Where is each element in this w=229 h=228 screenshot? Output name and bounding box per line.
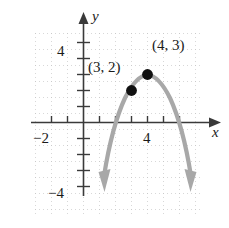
x-axis-tick-label-minus-2: −2 xyxy=(33,131,49,146)
point-marker-4-3 xyxy=(142,69,153,80)
point-marker-3-2 xyxy=(126,85,137,96)
y-axis-tick-label-4: 4 xyxy=(57,44,65,59)
point-label-3-2: (3, 2) xyxy=(88,60,121,75)
y-axis-label: y xyxy=(92,9,99,24)
x-axis-label: x xyxy=(212,125,219,140)
x-axis-tick-label-4: 4 xyxy=(143,131,151,146)
coordinate-plane-svg xyxy=(0,0,229,228)
point-label-4-3: (4, 3) xyxy=(152,38,185,53)
y-axis-tick-label-minus-4: −4 xyxy=(48,186,64,201)
graph-figure: y x 4 −4 −2 4 (3, 2) (4, 3) xyxy=(0,0,229,228)
